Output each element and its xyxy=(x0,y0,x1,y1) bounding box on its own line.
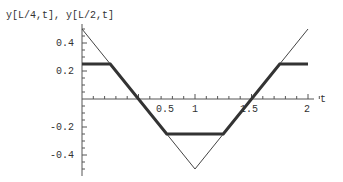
y-tick-label: 0.4 xyxy=(56,38,74,49)
y-axis-label: y[L/4,t], y[L/2,t] xyxy=(6,10,114,21)
x-tick-label: 2 xyxy=(304,104,310,115)
chart: y[L/4,t], y[L/2,t] t 0.5 1 1.5 2 0.4 0.2… xyxy=(0,0,343,182)
y-tick-label: 0.2 xyxy=(56,66,74,77)
y-tick-label: -0.2 xyxy=(50,122,74,133)
x-ticks xyxy=(93,94,319,99)
y-tick-label: -0.4 xyxy=(50,150,74,161)
x-tick-label: 1 xyxy=(192,104,198,115)
x-tick-label: 0.5 xyxy=(156,104,174,115)
x-axis-label: t xyxy=(320,94,326,105)
